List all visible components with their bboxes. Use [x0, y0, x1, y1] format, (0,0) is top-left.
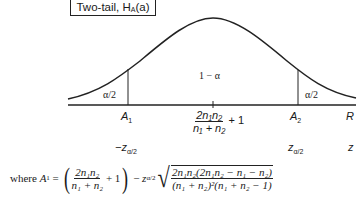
left-tail-label: α/2 — [103, 89, 116, 100]
right-tail-label: α/2 — [305, 89, 318, 100]
a1-formula: where A1 = ( 2n₁n₂n₁ + n₂ + 1 ) − zα/2 √… — [10, 163, 273, 193]
pos-z-label: zα/2 — [288, 141, 303, 155]
z-axis-name: z — [348, 141, 354, 153]
neg-z-label: −zα/2 — [115, 141, 137, 155]
r-axis-name: R — [346, 110, 354, 122]
center-mean-label: 2n₁n₂n₁ + n₂ + 1 — [193, 109, 244, 134]
a2-label: A2 — [290, 110, 301, 124]
a1-label: A1 — [121, 110, 132, 124]
normal-curve — [68, 18, 356, 99]
center-region-label: 1 − α — [199, 70, 220, 81]
